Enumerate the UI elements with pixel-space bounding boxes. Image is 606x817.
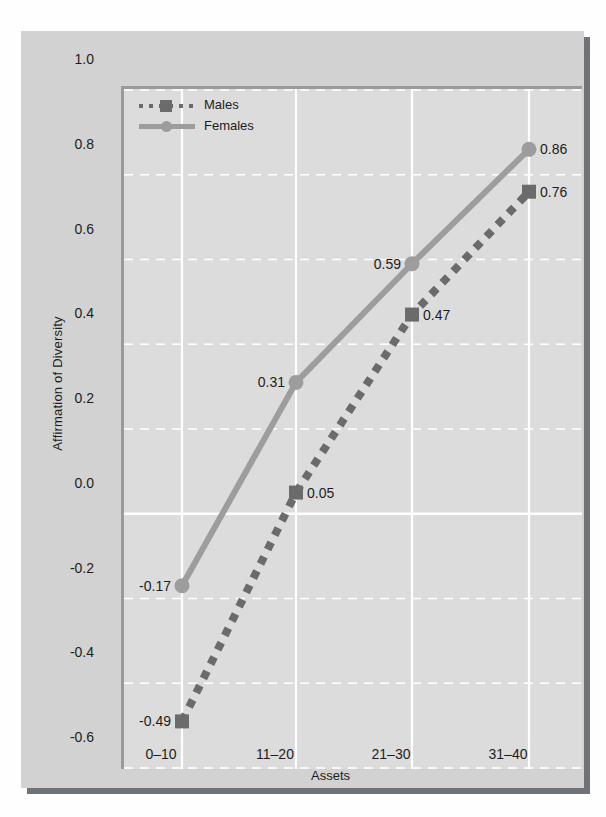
legend-key-females-icon (139, 118, 195, 134)
legend-item-males: Males (139, 94, 254, 115)
chart-legend: Males Females (139, 94, 254, 136)
y-tick-label: -0.4 (48, 644, 94, 660)
series-markers (175, 142, 537, 729)
y-tick-label: -0.6 (48, 729, 94, 745)
horizontal-gridlines (124, 90, 582, 768)
data-point-marker (522, 185, 536, 199)
chart-figure-panel: Affirmation of Diversity -0.490.050.470.… (21, 31, 584, 788)
y-tick-label: 0.6 (48, 221, 94, 237)
data-point-marker (175, 578, 190, 593)
legend-label-females: Females (204, 119, 254, 132)
data-point-marker (289, 486, 303, 500)
data-point-label: 0.76 (540, 184, 567, 200)
data-point-label: -0.17 (139, 578, 171, 594)
series-line-males (182, 192, 529, 722)
x-tick-label: 21–30 (346, 746, 436, 762)
data-point-marker (522, 142, 537, 157)
x-tick-label: 31–40 (463, 746, 553, 762)
page-canvas: Affirmation of Diversity -0.490.050.470.… (0, 0, 606, 817)
y-tick-label: 0.8 (48, 136, 94, 152)
y-tick-label: 0.0 (48, 475, 94, 491)
circle-marker-icon (161, 121, 172, 132)
y-tick-label: -0.2 (48, 560, 94, 576)
x-tick-label: 11–20 (230, 746, 320, 762)
y-axis-tick-labels: 1.00.80.60.40.20.0-0.2-0.4-0.6 (42, 0, 94, 817)
legend-key-males-icon (139, 97, 195, 113)
y-tick-label: 0.4 (48, 305, 94, 321)
data-point-label: 0.59 (374, 256, 401, 272)
x-axis-title: Assets (100, 768, 561, 783)
data-point-marker (405, 256, 420, 271)
plot-area: -0.490.050.470.76-0.170.310.590.86 (121, 86, 582, 769)
series-lines (182, 149, 529, 721)
series-line-females (182, 149, 529, 585)
data-point-label: 0.31 (258, 374, 285, 390)
square-marker-icon (160, 100, 172, 112)
y-tick-label: 1.0 (48, 51, 94, 67)
data-point-label: 0.05 (307, 485, 334, 501)
plot-inner: -0.490.050.470.76-0.170.310.590.86 (124, 89, 582, 769)
y-tick-label: 0.2 (48, 390, 94, 406)
data-point-label: 0.47 (423, 307, 450, 323)
line-chart-svg (124, 89, 582, 769)
data-point-label: -0.49 (139, 713, 171, 729)
data-point-label: 0.86 (540, 141, 567, 157)
data-point-marker (289, 375, 304, 390)
x-tick-label: 0–10 (116, 746, 206, 762)
legend-item-females: Females (139, 115, 254, 136)
legend-label-males: Males (204, 98, 239, 111)
data-point-marker (175, 714, 189, 728)
data-point-marker (405, 308, 419, 322)
